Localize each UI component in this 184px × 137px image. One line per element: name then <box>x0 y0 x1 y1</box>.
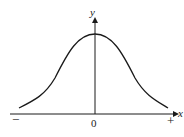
bell-curve <box>19 34 168 108</box>
minus-label: − <box>12 113 19 126</box>
y-axis-label: y <box>90 7 95 18</box>
plus-label: + <box>167 114 174 127</box>
x-axis-label: x <box>178 108 183 119</box>
origin-label: 0 <box>91 118 97 129</box>
